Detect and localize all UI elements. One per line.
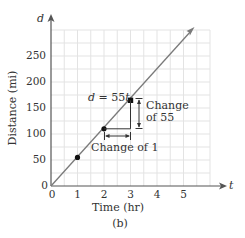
- x-tick-5: 5: [180, 188, 187, 200]
- x-tick-1: 1: [74, 188, 81, 200]
- y-tick-150: 150: [26, 101, 46, 113]
- change-of-55-label-line2: of 55: [146, 111, 174, 124]
- equation-rhs: = 55: [95, 91, 125, 104]
- y-tick-0: 0: [41, 179, 48, 191]
- y-tick-250: 250: [26, 49, 46, 61]
- y-axis-variable: d: [37, 12, 44, 25]
- y-tick-200: 200: [26, 75, 46, 87]
- y-axis-title: Distance (mi): [6, 71, 19, 146]
- y-tick-labels: 0 50 100 150 200 250: [26, 49, 48, 191]
- figure-caption: (b): [112, 217, 128, 230]
- x-axis-title: Time (hr): [92, 201, 144, 214]
- x-tick-2: 2: [101, 188, 108, 200]
- change-of-1-label: Change of 1: [91, 141, 158, 154]
- distance-time-chart: t d 0 1 2 3 4 5 0 50 100 150 200 250 Tim…: [0, 0, 245, 238]
- equation-var: t: [125, 91, 130, 104]
- change-of-55-arrow: [136, 99, 143, 129]
- axes: [51, 17, 224, 186]
- x-tick-3: 3: [127, 188, 134, 200]
- data-point-t1: [75, 155, 80, 160]
- equation-label: d = 55t: [88, 91, 130, 104]
- x-tick-labels: 0 1 2 3 4 5: [49, 188, 187, 200]
- x-axis-variable: t: [229, 179, 234, 192]
- x-tick-0: 0: [49, 188, 56, 200]
- x-tick-4: 4: [154, 188, 161, 200]
- y-tick-100: 100: [26, 127, 46, 139]
- equation-lhs: d: [88, 91, 95, 104]
- y-tick-50: 50: [33, 153, 46, 165]
